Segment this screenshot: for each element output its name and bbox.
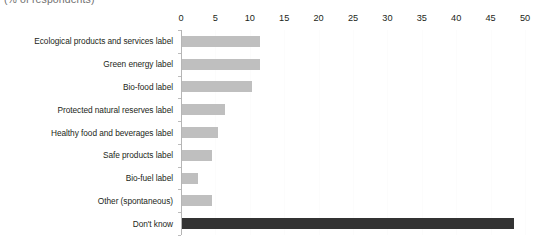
category-label: Bio-fuel label bbox=[0, 173, 173, 183]
category-label: Other (spontaneous) bbox=[0, 196, 173, 206]
y-axis-tick bbox=[178, 76, 181, 77]
bar-chart-figure: (% of respondents) 05101520253035404550 … bbox=[0, 0, 544, 241]
gridline bbox=[387, 30, 388, 235]
gridline bbox=[284, 30, 285, 235]
bar bbox=[182, 150, 212, 161]
category-label: Bio-food label bbox=[0, 82, 173, 92]
y-axis-tick bbox=[178, 144, 181, 145]
category-label: Protected natural reserves label bbox=[0, 105, 173, 115]
x-axis-tick-label: 25 bbox=[348, 13, 358, 23]
y-axis-tick bbox=[178, 30, 181, 31]
category-label: Green energy label bbox=[0, 59, 173, 69]
x-axis-tick-label: 0 bbox=[178, 13, 183, 23]
y-axis-tick bbox=[178, 167, 181, 168]
gridline bbox=[491, 30, 492, 235]
x-axis-tick-label: 40 bbox=[451, 13, 461, 23]
bar bbox=[182, 218, 514, 229]
y-axis-tick bbox=[178, 212, 181, 213]
bar bbox=[182, 104, 225, 115]
y-axis-tick bbox=[178, 235, 181, 236]
y-axis-tick bbox=[178, 98, 181, 99]
gridline bbox=[456, 30, 457, 235]
x-axis-tick-label: 10 bbox=[245, 13, 255, 23]
bar bbox=[182, 59, 260, 70]
bar bbox=[182, 173, 198, 184]
chart-title-fragment: (% of respondents) bbox=[4, 0, 174, 5]
category-label-column: Ecological products and services labelGr… bbox=[0, 30, 173, 235]
plot-area bbox=[181, 30, 525, 235]
y-axis-tick bbox=[178, 53, 181, 54]
category-label: Ecological products and services label bbox=[0, 36, 173, 46]
gridline bbox=[525, 30, 526, 235]
x-axis-tick-label: 20 bbox=[313, 13, 323, 23]
x-axis-tick-label: 35 bbox=[417, 13, 427, 23]
gridline bbox=[319, 30, 320, 235]
bar bbox=[182, 195, 212, 206]
bar bbox=[182, 127, 218, 138]
x-axis-tick-label: 15 bbox=[279, 13, 289, 23]
category-label: Healthy food and beverages label bbox=[0, 128, 173, 138]
category-label: Don't know bbox=[0, 219, 173, 229]
bar bbox=[182, 81, 252, 92]
x-axis-tick-label: 30 bbox=[382, 13, 392, 23]
bar bbox=[182, 36, 260, 47]
y-axis-tick bbox=[178, 189, 181, 190]
gridline bbox=[422, 30, 423, 235]
x-axis-tick-label: 5 bbox=[213, 13, 218, 23]
gridline bbox=[353, 30, 354, 235]
y-axis-tick bbox=[178, 121, 181, 122]
x-axis-tick-labels: 05101520253035404550 bbox=[181, 13, 525, 27]
category-label: Safe products label bbox=[0, 150, 173, 160]
x-axis-tick-label: 50 bbox=[520, 13, 530, 23]
x-axis-tick-label: 45 bbox=[485, 13, 495, 23]
